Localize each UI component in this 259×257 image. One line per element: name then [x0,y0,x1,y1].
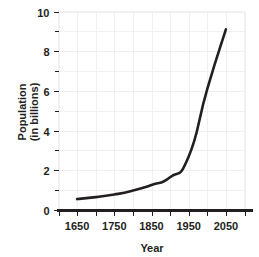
y-axis-tick-label: 10 [37,7,49,19]
y-axis-title-line2: (in billions) [28,82,40,141]
y-axis-title-line1: Population [16,83,28,140]
y-axis-tick-label: 8 [43,46,49,58]
y-axis-title-group: Population (in billions) [16,82,40,141]
x-axis-tick-label: 1850 [139,220,163,232]
chart-canvas: 0246810 16501750185019502050 Year Popula… [0,0,259,257]
x-axis-title: Year [140,242,164,254]
x-axis-tick-label: 1650 [65,220,89,232]
y-axis-tick-label: 2 [43,165,49,177]
y-axis-tick-label: 4 [43,126,50,138]
x-axis-tick-label: 1750 [102,220,126,232]
x-axis-tick-label: 1950 [176,220,200,232]
y-axis-tick-label: 0 [43,205,49,217]
y-axis-tick-label: 6 [43,86,49,98]
x-axis-tick-label: 2050 [214,220,238,232]
population-line-chart: 0246810 16501750185019502050 Year Popula… [0,0,259,257]
